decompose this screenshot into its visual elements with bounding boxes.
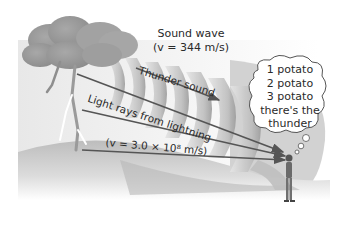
thought-line: 1 potato [251, 63, 329, 77]
sound-wave-title: Sound wave [150, 27, 232, 40]
thought-bubble-text: 1 potato 2 potato 3 potato there's the t… [251, 63, 329, 131]
thought-line: 3 potato [251, 90, 329, 104]
thought-line: 2 potato [251, 77, 329, 91]
thunder-lightning-diagram: Sound wave (v = 344 m/s) Thunder sound L… [0, 0, 349, 227]
thought-line: there's the [251, 104, 329, 118]
sound-wave-speed: (v = 344 m/s) [148, 41, 234, 54]
thought-line: thunder [251, 117, 329, 131]
